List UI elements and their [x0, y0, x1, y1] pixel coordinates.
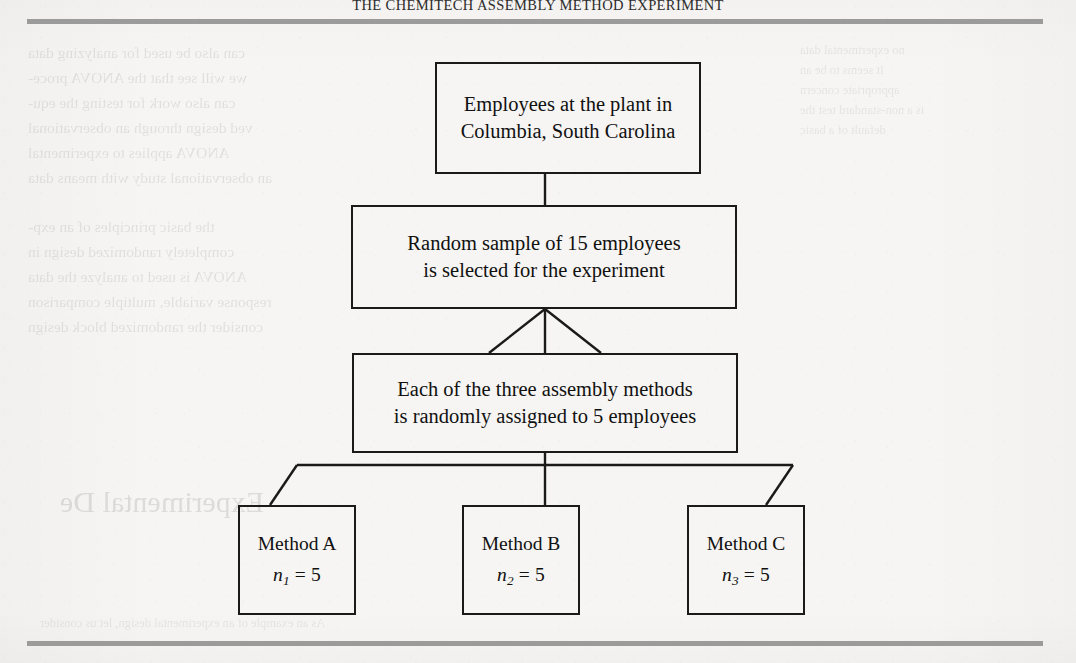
node-random-assignment-line2: is randomly assigned to 5 employees [394, 405, 696, 427]
method-a-sample-size: n1 = 5 [273, 562, 321, 589]
node-population: Employees at the plant in Columbia, Sout… [435, 62, 701, 174]
node-random-sample: Random sample of 15 employees is selecte… [351, 205, 737, 309]
node-population-text: Employees at the plant in Columbia, Sout… [455, 91, 682, 144]
connector-bus-to-method-a [270, 465, 297, 505]
node-random-assignment-text: Each of the three assembly methods is ra… [388, 376, 702, 429]
node-random-assignment-line1: Each of the three assembly methods [397, 378, 692, 400]
method-a-n-value: = 5 [295, 564, 321, 585]
method-c-label: Method C [707, 531, 786, 556]
connector-sample-fan-right [545, 309, 601, 353]
scanned-textbook-page: THE CHEMITECH ASSEMBLY METHOD EXPERIMENT… [0, 0, 1076, 663]
method-c-n-value: = 5 [744, 564, 770, 585]
node-random-assignment: Each of the three assembly methods is ra… [352, 353, 738, 453]
method-b-sample-size: n2 = 5 [497, 562, 545, 589]
node-random-sample-text: Random sample of 15 employees is selecte… [401, 230, 686, 283]
method-b-n-subscript: 2 [507, 572, 514, 587]
method-c-n-symbol: n [722, 564, 732, 585]
node-random-sample-line2: is selected for the experiment [423, 259, 664, 281]
node-method-c: Method C n3 = 5 [687, 505, 805, 615]
node-method-b: Method B n2 = 5 [462, 505, 580, 615]
node-random-sample-line1: Random sample of 15 employees [407, 232, 680, 254]
method-a-label: Method A [258, 531, 337, 556]
connector-bus-to-method-c [766, 465, 793, 505]
method-b-n-symbol: n [497, 564, 507, 585]
method-a-n-symbol: n [273, 564, 283, 585]
method-b-label: Method B [482, 531, 561, 556]
node-population-line1: Employees at the plant in [464, 93, 672, 115]
node-population-line2: Columbia, South Carolina [461, 120, 676, 142]
method-c-sample-size: n3 = 5 [722, 562, 770, 589]
connector-sample-fan-left [489, 309, 545, 353]
method-c-n-subscript: 3 [732, 572, 739, 587]
experiment-design-flowchart: Employees at the plant in Columbia, Sout… [0, 0, 1076, 663]
node-method-a: Method A n1 = 5 [238, 505, 356, 615]
method-b-n-value: = 5 [519, 564, 545, 585]
method-a-n-subscript: 1 [283, 572, 290, 587]
